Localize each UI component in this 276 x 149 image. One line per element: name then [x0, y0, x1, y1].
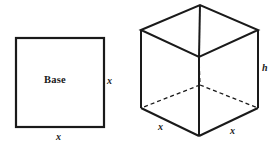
- cube-inner-back-vertical: [199, 5, 200, 57]
- cube-bottom-front-left-edge: [141, 108, 199, 136]
- cube-hidden-bottom-left-edge: [141, 85, 200, 108]
- cube-shape: [141, 5, 258, 136]
- cube-height-label: h: [262, 63, 268, 73]
- cube-visible-edges: [141, 5, 258, 136]
- base-square-bottom-side-label: x: [56, 132, 61, 142]
- base-square-center-label: Base: [44, 75, 66, 86]
- cube-hidden-bottom-right-edge: [200, 85, 258, 108]
- geometry-figure: Base x x h x x: [0, 0, 276, 149]
- cube-front-right-edge-label: x: [230, 126, 235, 136]
- cube-front-left-edge-label: x: [158, 122, 163, 132]
- base-square-right-side-label: x: [107, 76, 112, 86]
- cube-bottom-front-right-edge: [199, 108, 258, 136]
